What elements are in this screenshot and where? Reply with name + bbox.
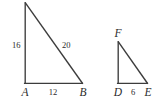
side-label-6: 6: [131, 88, 135, 97]
segment-FE-hypotenuse: [118, 42, 147, 83]
segment-CB-hypotenuse: [25, 3, 82, 83]
vertex-label-A: A: [21, 87, 28, 99]
triangle-def-shape: [118, 42, 148, 83]
vertex-label-D: D: [114, 87, 122, 99]
triangle-abc-shape: [25, 3, 83, 83]
geometry-figure: 16 20 A 12 B F D 6 E: [0, 0, 164, 101]
side-label-12: 12: [49, 88, 58, 97]
vertex-label-F: F: [114, 28, 121, 40]
vertex-label-B: B: [79, 87, 86, 99]
side-label-20: 20: [62, 41, 71, 50]
side-label-16: 16: [12, 41, 21, 50]
vertex-label-E: E: [144, 87, 151, 99]
